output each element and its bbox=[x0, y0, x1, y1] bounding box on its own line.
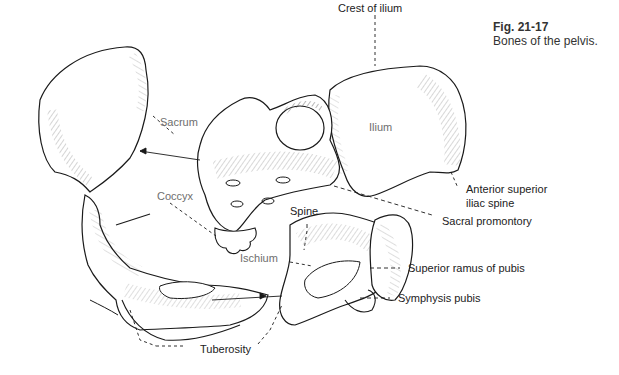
sacrum bbox=[198, 95, 340, 232]
coccyx bbox=[215, 228, 256, 254]
pelvis-figure: Fig. 21-17 Bones of the pelvis. Crest of… bbox=[0, 0, 619, 375]
label-symphysis-pubis: Symphysis pubis bbox=[398, 292, 481, 305]
label-anterior-superior-iliac-spine-1: Anterior superior bbox=[466, 183, 547, 196]
label-crest-of-ilium: Crest of ilium bbox=[338, 2, 402, 15]
label-ilium: Ilium bbox=[369, 121, 392, 134]
label-superior-ramus-of-pubis: Superior ramus of pubis bbox=[408, 262, 525, 275]
right-ischium-pubis bbox=[280, 213, 413, 325]
label-anterior-superior-iliac-spine-2: iliac spine bbox=[466, 197, 514, 210]
label-spine: Spine bbox=[290, 205, 318, 218]
label-sacrum: Sacrum bbox=[160, 116, 198, 129]
figure-number: Fig. 21-17 bbox=[493, 20, 548, 34]
left-ilium bbox=[39, 47, 148, 192]
label-sacral-promontory: Sacral promontory bbox=[442, 215, 532, 228]
figure-title: Bones of the pelvis. bbox=[493, 34, 598, 48]
label-ischium: Ischium bbox=[240, 252, 278, 265]
label-coccyx: Coccyx bbox=[157, 190, 193, 203]
right-ilium bbox=[329, 66, 466, 196]
label-tuberosity: Tuberosity bbox=[200, 343, 251, 356]
